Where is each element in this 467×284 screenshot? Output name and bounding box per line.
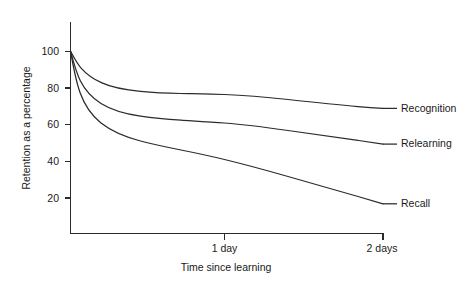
x-axis-title: Time since learning: [181, 261, 272, 273]
forgetting-curve-chart: 100 80 60 40 20 1 day 2 days Time since …: [0, 0, 467, 284]
y-tick-label-100: 100: [41, 45, 59, 57]
y-tick-label-20: 20: [47, 192, 59, 204]
y-tick-label-40: 40: [47, 155, 59, 167]
series-label-recognition: Recognition: [401, 102, 457, 114]
x-tick-label-1-day: 1 day: [212, 242, 238, 254]
x-tick-label-2-days: 2 days: [367, 242, 398, 254]
y-tick-label-80: 80: [47, 82, 59, 94]
series-label-relearning: Relearning: [401, 137, 452, 149]
y-axis-title: Retention as a percentage: [20, 66, 32, 189]
y-tick-label-60: 60: [47, 118, 59, 130]
chart-canvas: 100 80 60 40 20 1 day 2 days Time since …: [0, 0, 467, 284]
series-label-recall: Recall: [401, 197, 430, 209]
